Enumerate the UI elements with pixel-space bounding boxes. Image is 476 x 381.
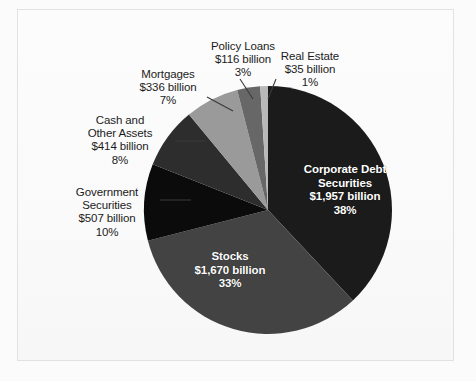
pie-label-cash-value: $414 billion xyxy=(72,140,168,153)
pie-label-government-securities: Government Securities $507 billion 10% xyxy=(58,186,156,239)
pie-label-cash-line1: Cash and xyxy=(72,114,168,127)
pie-label-govsec-percent: 10% xyxy=(58,226,156,239)
pie-label-mortgages-name: Mortgages xyxy=(118,68,218,81)
pie-label-real-estate-value: $35 billion xyxy=(267,63,353,76)
chart-page: . xyxy=(0,0,476,381)
pie-label-corpdebt-percent: 38% xyxy=(283,204,407,218)
pie-label-govsec-line2: Securities xyxy=(58,199,156,212)
pie-label-mortgages-value: $336 billion xyxy=(118,81,218,94)
pie-label-corpdebt-line1: Corporate Debt xyxy=(283,163,407,177)
pie-chart: Policy Loans $116 billion 3% Real Estate… xyxy=(0,0,476,381)
pie-label-real-estate-percent: 1% xyxy=(267,76,353,89)
pie-label-real-estate-name: Real Estate xyxy=(267,50,353,63)
pie-label-corporate-debt-securities: Corporate Debt Securities $1,957 billion… xyxy=(283,163,407,217)
pie-label-cash-percent: 8% xyxy=(72,154,168,167)
pie-label-cash-line2: Other Assets xyxy=(72,127,168,140)
pie-label-govsec-line1: Government xyxy=(58,186,156,199)
pie-label-mortgages-percent: 7% xyxy=(118,94,218,107)
pie-label-corpdebt-line2: Securities xyxy=(283,177,407,191)
pie-label-stocks: Stocks $1,670 billion 33% xyxy=(168,250,292,291)
pie-label-real-estate: Real Estate $35 billion 1% xyxy=(267,50,353,90)
pie-label-mortgages: Mortgages $336 billion 7% xyxy=(118,68,218,108)
pie-label-corpdebt-value: $1,957 billion xyxy=(283,190,407,204)
pie-label-stocks-percent: 33% xyxy=(168,277,292,291)
pie-label-cash-and-other-assets: Cash and Other Assets $414 billion 8% xyxy=(72,114,168,167)
pie-label-stocks-name: Stocks xyxy=(168,250,292,264)
pie-label-stocks-value: $1,670 billion xyxy=(168,264,292,278)
pie-label-govsec-value: $507 billion xyxy=(58,212,156,225)
